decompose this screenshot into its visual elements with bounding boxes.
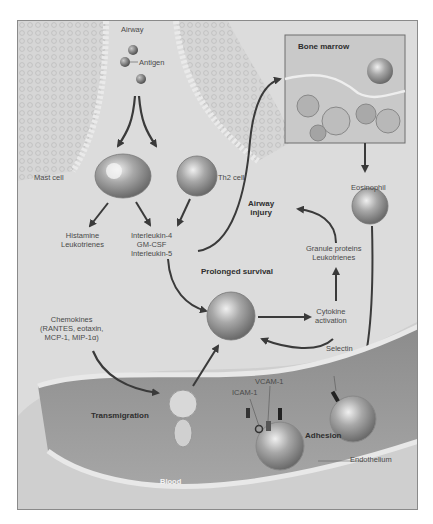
prolonged-survival-label: Prolonged survival bbox=[201, 267, 273, 276]
diagram-artwork bbox=[18, 21, 418, 510]
th2-products-label: Interleukin-4 GM-CSF Interleukin-5 bbox=[131, 231, 172, 258]
vcam-label: VCAM-1 bbox=[255, 377, 283, 386]
airway-label: Airway bbox=[121, 25, 144, 34]
bone-marrow-box bbox=[285, 35, 405, 143]
blood-label: Blood bbox=[160, 477, 181, 486]
icam-label: ICAM-1 bbox=[232, 388, 257, 397]
airway-injury-label: Airway injury bbox=[248, 199, 274, 217]
cytokine-activation-label: Cytokine activation bbox=[315, 307, 347, 325]
granule-products-label: Granule proteins Leukotrienes bbox=[306, 244, 361, 262]
mast-cell bbox=[95, 154, 151, 198]
mast-cell-label: Mast cell bbox=[34, 173, 64, 182]
adhesion-label: Adhesion bbox=[305, 431, 341, 440]
mast-products-label: Histamine Leukotrienes bbox=[61, 231, 104, 249]
airway-tissue bbox=[18, 21, 293, 181]
selectin-label: Selectin bbox=[326, 344, 353, 353]
eosinophil-label: Eosinophil bbox=[351, 183, 386, 192]
chemokines-label: Chemokines (RANTES, eotaxin, MCP-1, MIP-… bbox=[40, 315, 103, 342]
endothelium-label: Endothelium bbox=[350, 455, 392, 464]
th2-cell-label: Th2 cell bbox=[218, 173, 244, 182]
th2-cell bbox=[177, 156, 217, 196]
eosinophil-cell bbox=[352, 188, 388, 224]
survival-eosinophil bbox=[207, 292, 255, 340]
diagram-frame: Airway Antigen Mast cell Th2 cell Histam… bbox=[17, 20, 418, 510]
antigen-label: Antigen bbox=[139, 58, 164, 67]
bone-marrow-label: Bone marrow bbox=[298, 42, 349, 51]
transmigration-label: Transmigration bbox=[91, 411, 149, 420]
